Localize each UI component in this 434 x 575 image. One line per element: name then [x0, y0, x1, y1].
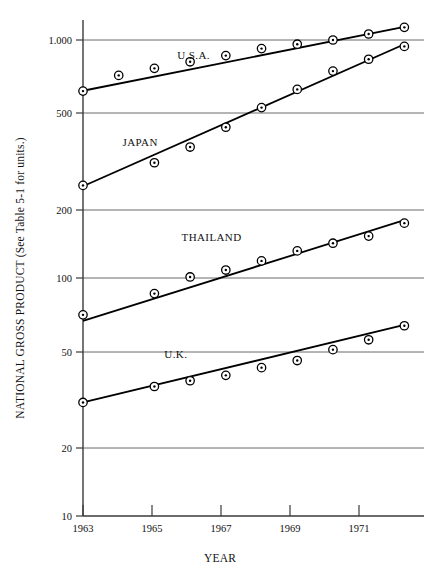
y-tick-label-500: 500: [56, 108, 72, 119]
data-point-center: [225, 126, 227, 128]
data-point-center: [225, 269, 227, 271]
y-tick-label-50: 50: [62, 347, 73, 358]
data-point-center: [189, 380, 191, 382]
series-label-japan: JAPAN: [123, 136, 158, 148]
y-tick-marks: [76, 40, 83, 516]
data-point-center: [296, 88, 298, 90]
data-point-center: [367, 339, 369, 341]
data-point-center: [153, 162, 155, 164]
series-u-s-a: [79, 23, 409, 95]
x-tick-label-1971: 1971: [349, 523, 370, 534]
data-point-center: [296, 43, 298, 45]
data-point-center: [82, 401, 84, 403]
series-thailand: [79, 219, 409, 321]
data-point-center: [332, 348, 334, 350]
gridlines: [83, 40, 424, 448]
y-tick-label-200: 200: [56, 205, 72, 216]
data-point-center: [296, 359, 298, 361]
series-japan: [79, 42, 409, 189]
data-point-center: [82, 184, 84, 186]
data-point-center: [367, 33, 369, 35]
data-point-center: [332, 242, 334, 244]
series-label-u-s-a: U.S.A.: [177, 49, 210, 61]
data-point-center: [260, 106, 262, 108]
data-point-center: [403, 26, 405, 28]
data-point-center: [153, 292, 155, 294]
trend-line: [83, 220, 404, 321]
data-point-center: [296, 250, 298, 252]
data-point-center: [367, 235, 369, 237]
data-point-center: [260, 47, 262, 49]
trend-line: [83, 44, 404, 186]
x-tick-label-1969: 1969: [280, 523, 301, 534]
series-label-thailand: THAILAND: [182, 231, 242, 243]
y-axis-title: NATIONAL GROSS PRODUCT (See Table 5-1 fo…: [14, 137, 27, 419]
y-tick-label-1000: 1.000: [48, 35, 72, 46]
data-point-center: [403, 325, 405, 327]
plot-series-layer: [79, 23, 409, 406]
y-tick-label-10: 10: [62, 511, 73, 522]
log-scale-line-chart: 1.000 500 200 100 50 20 10 1963 1965 196…: [0, 0, 434, 575]
x-tick-label-1965: 1965: [142, 523, 163, 534]
x-tick-marks: [83, 505, 359, 516]
x-tick-label-1963: 1963: [73, 523, 94, 534]
series-labels-layer: U.S.A.JAPANTHAILANDU.K.: [123, 49, 242, 360]
data-point-center: [189, 276, 191, 278]
data-point-center: [153, 67, 155, 69]
data-point-center: [82, 314, 84, 316]
x-axis-title: YEAR: [204, 552, 236, 564]
x-tick-labels: 1963 1965 1967 1969 1971: [73, 523, 370, 534]
data-point-center: [225, 374, 227, 376]
data-point-center: [118, 74, 120, 76]
data-point-center: [403, 222, 405, 224]
y-tick-label-100: 100: [56, 273, 72, 284]
data-point-center: [367, 58, 369, 60]
series-u-k: [79, 322, 409, 407]
data-point-center: [332, 39, 334, 41]
data-point-center: [189, 146, 191, 148]
data-point-center: [82, 90, 84, 92]
series-label-u-k: U.K.: [164, 348, 187, 360]
data-point-center: [225, 54, 227, 56]
data-point-center: [260, 366, 262, 368]
trend-line: [83, 325, 404, 403]
data-point-center: [332, 70, 334, 72]
x-tick-label-1967: 1967: [211, 523, 232, 534]
y-tick-labels: 1.000 500 200 100 50 20 10: [48, 35, 72, 522]
data-point-center: [403, 45, 405, 47]
trend-line: [83, 27, 404, 91]
data-point-center: [153, 385, 155, 387]
y-tick-label-20: 20: [62, 443, 73, 454]
data-point-center: [260, 260, 262, 262]
